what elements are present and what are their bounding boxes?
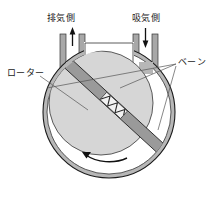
label-exhaust-side: 排気側 (47, 13, 75, 24)
rotary-vane-pump-diagram: 排気側 吸気側 ローター ベーン (0, 0, 218, 200)
label-intake-side: 吸気側 (132, 13, 160, 24)
label-vane: ベーン (178, 57, 206, 68)
label-rotor: ローター (7, 68, 44, 79)
diagram-canvas (0, 0, 218, 200)
